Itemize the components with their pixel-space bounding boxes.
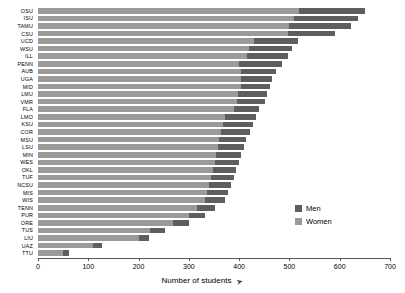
y-tick-label: OSU <box>21 8 33 14</box>
y-tick-label: TAMU <box>18 23 33 29</box>
y-tick-label: MIN <box>23 152 33 158</box>
bar-row <box>38 114 390 120</box>
bar-segment-women <box>38 182 209 188</box>
y-tick-label: TUS <box>22 227 33 233</box>
y-tick-label: UCD <box>21 38 33 44</box>
bar-row <box>38 84 390 90</box>
bar-segment-men <box>207 190 228 196</box>
bar-segment-women <box>38 167 213 173</box>
mouse-cursor-icon: ➤ <box>235 275 245 287</box>
bar-row <box>38 243 390 249</box>
x-axis-line <box>38 258 391 259</box>
bar-segment-men <box>197 205 215 211</box>
y-tick-label: LMU <box>21 91 33 97</box>
x-tick <box>38 258 39 261</box>
y-tick-label: TUF <box>22 174 33 180</box>
bar-row <box>38 152 390 158</box>
bar-row <box>38 106 390 112</box>
bar-row <box>38 160 390 166</box>
y-tick-label: WES <box>20 159 33 165</box>
y-tick-label: UGA <box>21 76 33 82</box>
x-tick-label: 700 <box>384 262 396 271</box>
bar-row <box>38 175 390 181</box>
bar-segment-men <box>241 76 272 82</box>
bar-segment-men <box>189 213 206 219</box>
bar-segment-women <box>38 235 139 241</box>
bar-row <box>38 91 390 97</box>
bar-segment-men <box>173 220 189 226</box>
bar-row <box>38 23 390 29</box>
bar-row <box>38 137 390 143</box>
legend: Men Women <box>295 203 332 229</box>
bar-segment-men <box>215 160 239 166</box>
bar-row <box>38 190 390 196</box>
y-tick-label: MIS <box>23 190 33 196</box>
legend-item-men: Men <box>295 203 332 214</box>
bar-segment-men <box>289 23 350 29</box>
bar-segment-women <box>38 250 63 256</box>
bar-row <box>38 16 390 22</box>
bar-row <box>38 182 390 188</box>
y-tick-label: WSU <box>20 46 33 52</box>
bar-row <box>38 122 390 128</box>
bar-row <box>38 167 390 173</box>
x-tick-label: 300 <box>183 262 195 271</box>
bar-row <box>38 129 390 135</box>
legend-swatch-men <box>295 205 302 212</box>
x-tick <box>189 258 190 261</box>
bar-segment-men <box>294 16 357 22</box>
y-tick-label: MID <box>23 84 33 90</box>
bar-segment-men <box>223 122 253 128</box>
bar-row <box>38 61 390 67</box>
bar-segment-women <box>38 205 197 211</box>
y-tick-label: COR <box>21 129 33 135</box>
y-tick-label: LIU <box>24 235 33 241</box>
y-tick-label: TTU <box>22 250 33 256</box>
bar-row <box>38 53 390 59</box>
bar-segment-women <box>38 197 205 203</box>
y-tick-label: ISU <box>24 15 33 21</box>
bar-row <box>38 144 390 150</box>
x-axis-title-text: Number of students <box>162 276 232 285</box>
bar-segment-women <box>38 243 93 249</box>
x-tick-label: 600 <box>334 262 346 271</box>
y-tick-label: AUB <box>21 68 33 74</box>
bar-segment-women <box>38 129 221 135</box>
bar-segment-men <box>299 8 364 14</box>
bar-segment-women <box>38 31 288 37</box>
x-tick <box>139 258 140 261</box>
bar-segment-men <box>254 38 298 44</box>
x-axis-title: Number of students➤ <box>0 275 405 286</box>
bar-segment-women <box>38 46 249 52</box>
legend-item-women: Women <box>295 216 332 227</box>
x-tick-label: 200 <box>133 262 145 271</box>
x-tick-label: 400 <box>233 262 245 271</box>
bar-segment-women <box>38 152 216 158</box>
bar-segment-men <box>238 91 267 97</box>
bar-segment-men <box>93 243 102 249</box>
bar-segment-women <box>38 228 150 234</box>
y-tick-label: ORE <box>21 220 33 226</box>
bar-row <box>38 46 390 52</box>
bar-segment-men <box>63 250 69 256</box>
x-tick <box>390 258 391 261</box>
y-tick-label: MSU <box>21 137 33 143</box>
bar-row <box>38 220 390 226</box>
bar-row <box>38 250 390 256</box>
bar-segment-men <box>234 106 259 112</box>
bar-segment-women <box>38 137 219 143</box>
bar-segment-men <box>249 46 292 52</box>
bar-segment-women <box>38 114 225 120</box>
bar-segment-women <box>38 144 218 150</box>
bar-chart: OSUISUTAMUCSUUCDWSUILLPENNAUBUGAMIDLMUVM… <box>0 0 405 293</box>
bar-segment-men <box>216 152 241 158</box>
y-tick-label: OKL <box>22 167 33 173</box>
bar-segment-women <box>38 61 239 67</box>
bar-segment-men <box>288 31 334 37</box>
bar-segment-women <box>38 175 211 181</box>
x-tick-label: 0 <box>36 262 40 271</box>
x-tick-label: 100 <box>82 262 94 271</box>
bar-segment-men <box>150 228 165 234</box>
bar-segment-men <box>219 137 246 143</box>
bar-segment-men <box>241 84 270 90</box>
